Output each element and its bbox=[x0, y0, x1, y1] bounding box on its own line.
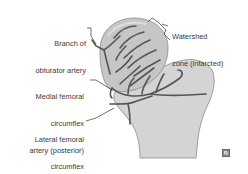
label-medial-line1: Medial femoral bbox=[12, 92, 84, 101]
label-lateral-line1: Lateral femoral bbox=[12, 135, 84, 144]
label-lateral-femoral-circumflex: Lateral femoral circumflex artery (anter… bbox=[12, 117, 84, 174]
label-watershed-line1: Watershed bbox=[172, 32, 223, 41]
label-lateral-line2: circumflex bbox=[12, 162, 84, 171]
image-expand-icon[interactable] bbox=[222, 149, 230, 157]
label-watershed-zone: Watershed zone (infarcted) bbox=[172, 14, 223, 77]
label-watershed-line2: zone (infarcted) bbox=[172, 59, 223, 68]
label-obturator-line1: Branch of bbox=[18, 39, 86, 48]
